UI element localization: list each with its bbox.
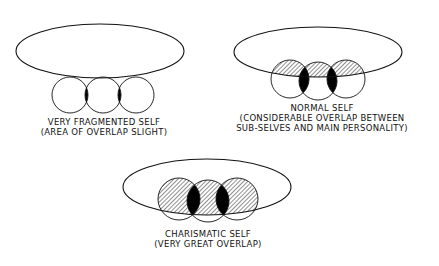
normal-self-caption-line-2: SUB-SELVES AND MAIN PERSONALITY) — [236, 123, 408, 133]
fragmented-self-caption: (AREA OF OVERLAP SLIGHT) — [41, 127, 168, 137]
normal-self-caption-line-1: (CONSIDERABLE OVERLAP BETWEEN — [236, 113, 408, 123]
normal-self-figure — [234, 27, 402, 100]
fragmented-self-figure — [16, 24, 184, 113]
normal-self-title: NORMAL SELF — [236, 103, 408, 113]
normal-self-label: NORMAL SELF (CONSIDERABLE OVERLAP BETWEE… — [236, 103, 408, 133]
charismatic-self-figure — [123, 159, 291, 222]
charismatic-self-label: CHARISMATIC SELF (VERY GREAT OVERLAP) — [154, 229, 262, 249]
main-personality-ellipse — [16, 24, 184, 78]
charismatic-self-caption: (VERY GREAT OVERLAP) — [154, 239, 262, 249]
sub-self-circle — [85, 77, 121, 113]
fragmented-self-label: VERY FRAGMENTED SELF (AREA OF OVERLAP SL… — [41, 117, 168, 137]
personality-overlap-diagram: VERY FRAGMENTED SELF (AREA OF OVERLAP SL… — [0, 0, 439, 266]
fragmented-self-title: VERY FRAGMENTED SELF — [41, 117, 168, 127]
sub-self-circle — [118, 77, 154, 113]
charismatic-self-title: CHARISMATIC SELF — [154, 229, 262, 239]
sub-self-circle — [52, 77, 88, 113]
